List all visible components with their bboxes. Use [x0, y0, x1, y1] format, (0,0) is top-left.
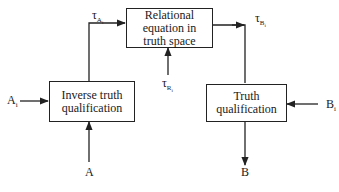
truth-qualification-diagram: Inverse truth qualification Relational e…: [0, 0, 339, 192]
box-line: truth space: [143, 35, 195, 48]
truth-qualification-box: Truth qualification: [206, 84, 287, 122]
arrow-relational-to-truth: [212, 25, 245, 83]
relational-equation-box: Relational equation in truth space: [126, 8, 213, 48]
tau-r-label: τRi: [162, 77, 173, 97]
box-line: Inverse truth: [62, 89, 123, 102]
inverse-truth-qualification-box: Inverse truth qualification: [49, 81, 135, 122]
a-label: A: [85, 166, 94, 178]
b-label: B: [241, 166, 249, 178]
box-line: qualification: [216, 103, 277, 116]
arrow-inverse-to-relational: [89, 23, 125, 81]
box-line: qualification: [62, 102, 123, 115]
a-i-label: Ai: [7, 94, 18, 111]
tau-a-label: τAi: [92, 9, 103, 29]
box-line: Relational: [145, 9, 194, 22]
tau-b-label: τBi: [255, 12, 266, 32]
box-line: equation in: [143, 22, 197, 35]
b-i-label: Bi: [326, 98, 336, 115]
